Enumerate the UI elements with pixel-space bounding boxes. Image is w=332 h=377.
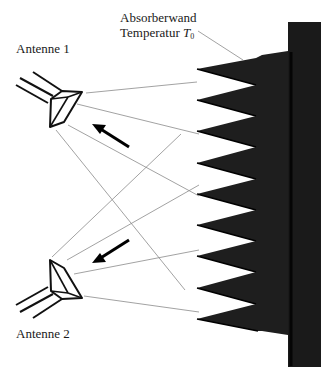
antenna-1-icon xyxy=(16,72,82,127)
antenna-1-label: Antenne 1 xyxy=(16,41,70,56)
diagram-canvas xyxy=(0,0,332,377)
arrow-toward-antenna-2-icon xyxy=(92,240,129,263)
temperature-subscript: 0 xyxy=(190,32,194,41)
antenna-2-label: Antenne 2 xyxy=(16,326,70,341)
absorber-wall-plate xyxy=(288,22,321,367)
wall-label: Absorberwand Temperatur T0 xyxy=(120,10,197,44)
wall-label-leader xyxy=(198,31,243,60)
antenna-2-icon xyxy=(16,260,82,318)
wall-label-line2: Temperatur T0 xyxy=(120,25,197,44)
arrow-toward-antenna-1-icon xyxy=(92,124,129,147)
wall-label-line1: Absorberwand xyxy=(120,10,197,25)
rays-antenna-1 xyxy=(56,82,199,290)
